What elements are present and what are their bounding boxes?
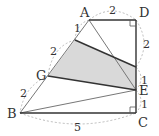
- length-QE: 1: [141, 74, 148, 87]
- length-AD: 2: [109, 4, 116, 17]
- length-EC: 1: [141, 98, 148, 111]
- label-G: G: [36, 68, 46, 83]
- label-B: B: [7, 106, 17, 121]
- label-D: D: [139, 5, 149, 20]
- label-C: C: [138, 115, 148, 130]
- length-DQ: 2: [143, 38, 150, 51]
- length-PG: 2: [50, 45, 57, 58]
- length-BC: 5: [74, 121, 81, 134]
- label-A: A: [79, 5, 90, 20]
- segment-BE: [20, 90, 136, 113]
- right-angle-D: [130, 20, 136, 26]
- geometry-diagram: A D B C E G 2 2 1 1 5 1 2 2: [0, 0, 159, 136]
- figure-canvas: A D B C E G 2 2 1 1 5 1 2 2: [0, 0, 159, 136]
- right-angle-C: [130, 107, 136, 113]
- length-AP: 1: [74, 22, 81, 35]
- length-GB: 2: [20, 87, 27, 100]
